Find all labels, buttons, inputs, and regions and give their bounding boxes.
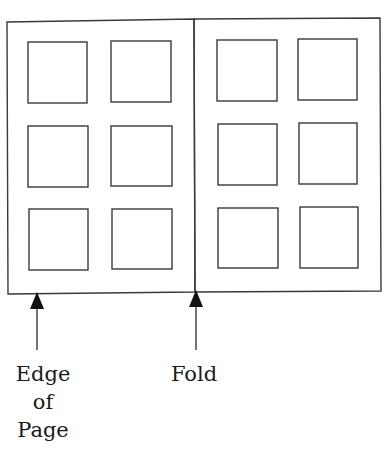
left-frame-r1c2 xyxy=(111,41,171,102)
fold-label: Fold xyxy=(162,360,226,388)
left-page-outline xyxy=(7,19,195,294)
left-frame-r2c1 xyxy=(28,126,88,187)
right-page-outline xyxy=(194,18,381,292)
left-frame-r1c1 xyxy=(28,42,87,103)
edge-label-line2: of xyxy=(6,388,80,416)
right-frame-r3c1 xyxy=(218,208,278,268)
right-frame-r2c1 xyxy=(218,124,277,185)
right-frame-r1c1 xyxy=(217,40,277,101)
left-frame-r3c2 xyxy=(112,209,172,269)
right-frame-r1c2 xyxy=(298,39,357,100)
edge-of-page-label: Edge of Page xyxy=(6,360,80,444)
right-frame-r2c2 xyxy=(299,123,357,184)
edge-arrow-icon xyxy=(30,292,44,309)
right-frame-r3c2 xyxy=(300,207,358,268)
left-frame-r3c1 xyxy=(29,209,88,270)
edge-label-line1: Edge xyxy=(6,360,80,388)
left-frame-r2c2 xyxy=(111,126,172,186)
edge-label-line3: Page xyxy=(6,416,80,444)
